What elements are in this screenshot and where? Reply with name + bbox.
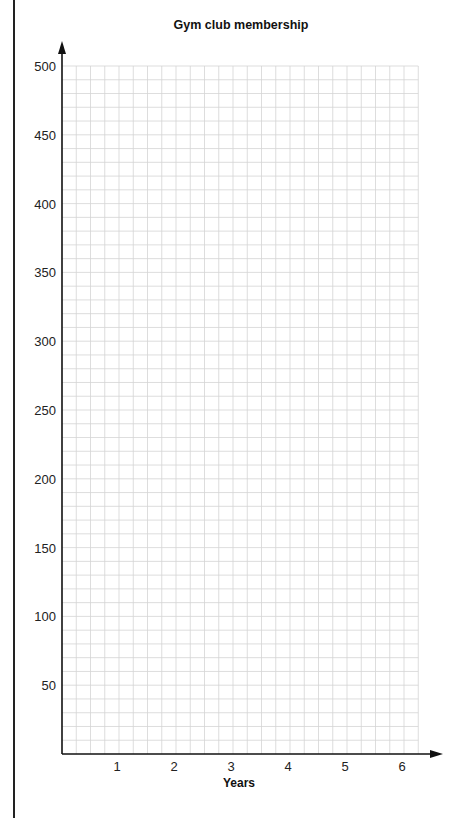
y-axis-arrow-icon (58, 41, 66, 54)
y-axis-ticks: 50100150200250300350400450500 (34, 59, 56, 693)
y-tick-label: 400 (34, 197, 56, 212)
x-tick-label: 5 (341, 759, 348, 774)
y-tick-label: 500 (34, 59, 56, 74)
x-axis-arrow-icon (430, 750, 443, 758)
y-tick-label: 450 (34, 128, 56, 143)
chart-area: 50100150200250300350400450500 123456 Gym… (0, 0, 467, 818)
y-tick-label: 100 (34, 609, 56, 624)
y-tick-label: 350 (34, 265, 56, 280)
x-axis-ticks: 123456 (113, 759, 405, 774)
x-tick-label: 1 (113, 759, 120, 774)
x-axis-label: Years (223, 776, 255, 790)
y-tick-label: 300 (34, 334, 56, 349)
chart-grid (62, 66, 418, 754)
y-tick-label: 150 (34, 541, 56, 556)
y-tick-label: 200 (34, 472, 56, 487)
y-tick-label: 250 (34, 403, 56, 418)
x-tick-label: 6 (398, 759, 405, 774)
y-tick-label: 50 (42, 678, 56, 693)
chart-title: Gym club membership (174, 18, 309, 32)
x-tick-label: 2 (170, 759, 177, 774)
x-tick-label: 4 (284, 759, 291, 774)
x-tick-label: 3 (227, 759, 234, 774)
